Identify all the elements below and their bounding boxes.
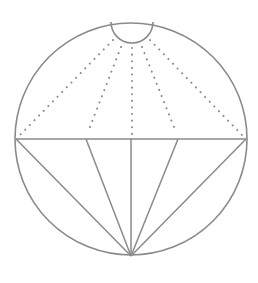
small-semicircle xyxy=(111,22,153,43)
solid-line-0 xyxy=(16,139,131,256)
dotted-line-4 xyxy=(150,40,242,135)
solid-line-3 xyxy=(131,139,178,256)
solid-line-4 xyxy=(131,139,246,256)
dotted-line-1 xyxy=(88,47,121,132)
dotted-line-0 xyxy=(20,40,113,135)
geometry-diagram xyxy=(0,0,258,283)
dotted-line-3 xyxy=(142,47,176,132)
solid-line-1 xyxy=(86,139,131,256)
